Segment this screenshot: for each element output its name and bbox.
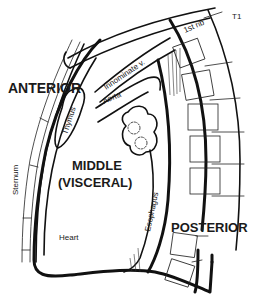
heart-vessels: [122, 106, 157, 155]
label-middle: MIDDLE: [72, 158, 122, 173]
mediastinum-diagram: ANTERIOR MIDDLE (VISCERAL) POSTERIOR T1 …: [0, 0, 259, 303]
label-aorta: Aorta: [101, 90, 123, 106]
label-heart: Heart: [59, 233, 79, 242]
label-thymus: Thymus: [60, 106, 77, 136]
label-visceral: (VISCERAL): [58, 175, 132, 190]
label-first-rib: 1st rib: [182, 18, 206, 35]
label-posterior: POSTERIOR: [171, 220, 248, 235]
label-sternum: Sternum: [11, 164, 20, 195]
label-t1: T1: [232, 12, 242, 21]
label-innominate: Innominate v.: [102, 58, 146, 92]
label-esophagus: Esophagus: [143, 191, 160, 232]
label-anterior: ANTERIOR: [8, 80, 81, 96]
vertebral-column: [165, 10, 244, 292]
